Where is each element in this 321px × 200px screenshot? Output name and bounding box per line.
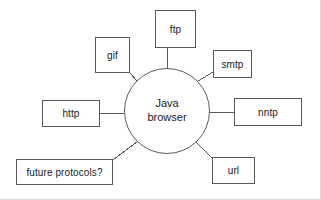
- edge-hub-smtp: [198, 72, 213, 81]
- node-label-smtp: smtp: [221, 59, 243, 70]
- edge-hub-url: [196, 142, 212, 158]
- edge-hub-future-protocols: [113, 142, 137, 160]
- hub-node-java-browser[interactable]: Java browser: [124, 68, 210, 154]
- node-box-ftp[interactable]: ftp: [155, 10, 196, 48]
- node-label-url: url: [228, 165, 239, 176]
- hub-label-line-2: browser: [147, 111, 186, 125]
- node-box-nntp[interactable]: nntp: [234, 98, 302, 126]
- node-label-nntp: nntp: [258, 107, 278, 118]
- node-label-http: http: [62, 108, 79, 119]
- node-label-ftp: ftp: [170, 24, 181, 35]
- hub-label-line-1: Java: [155, 97, 178, 111]
- node-box-http[interactable]: http: [42, 100, 100, 127]
- node-box-future-protocols[interactable]: future protocols?: [16, 159, 113, 185]
- node-box-smtp[interactable]: smtp: [213, 50, 252, 78]
- node-box-url[interactable]: url: [212, 157, 255, 184]
- node-label-future-protocols: future protocols?: [26, 167, 102, 178]
- diagram-canvas: ftpgifsmtphttpnntpfuture protocols?url J…: [0, 0, 321, 200]
- node-box-gif[interactable]: gif: [95, 37, 130, 73]
- node-label-gif: gif: [107, 50, 118, 61]
